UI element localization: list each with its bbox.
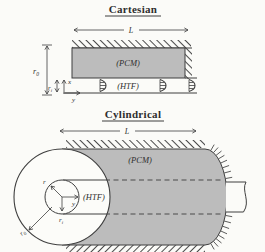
hatched-wall-top-cylindrical xyxy=(66,140,205,148)
length-label-cylindrical: L xyxy=(124,127,130,136)
pcm-htf-geometry-figure: Cartesian L (PCM) (HTF) r0 ri xyxy=(0,0,265,252)
r-axis-label: r xyxy=(43,178,46,186)
htf-label-cartesian: (HTF) xyxy=(117,81,139,91)
htf-label-cylindrical: (HTF) xyxy=(83,192,105,202)
pcm-label-cylindrical: (PCM) xyxy=(128,155,152,165)
hatched-wall-top-cartesian xyxy=(72,40,191,48)
outlet-pipe xyxy=(226,182,246,212)
cylindrical-title: Cylindrical xyxy=(105,108,161,120)
hatched-wall-right-cartesian xyxy=(185,48,192,79)
hatched-wall-bottom-cylindrical xyxy=(66,245,205,252)
pcm-label-cartesian: (PCM) xyxy=(116,58,140,68)
length-label-cartesian: L xyxy=(128,26,134,35)
cartesian-title: Cartesian xyxy=(109,3,158,15)
